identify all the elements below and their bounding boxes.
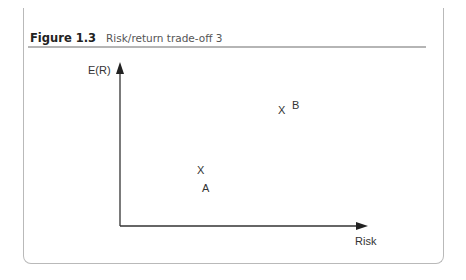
- point-b-marker: X: [278, 104, 285, 116]
- point-b-label: B: [292, 99, 299, 111]
- point-a-marker: X: [197, 164, 204, 176]
- chart-axes: [0, 0, 466, 280]
- point-a-label: A: [202, 182, 209, 194]
- y-axis-label: E(R): [88, 64, 111, 76]
- x-axis-label: Risk: [355, 235, 376, 247]
- y-axis-arrow-icon: [116, 62, 124, 74]
- x-axis-arrow-icon: [356, 222, 368, 230]
